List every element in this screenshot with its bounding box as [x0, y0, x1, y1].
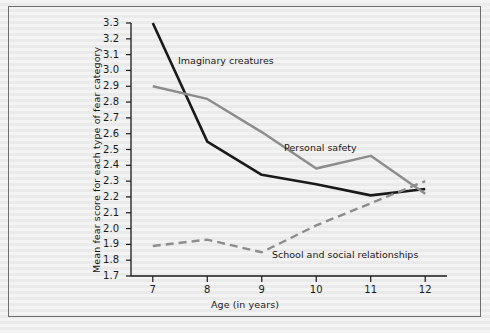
x-tick-label: 12 — [413, 284, 437, 295]
data-series-line — [153, 181, 425, 252]
data-series-line — [153, 23, 425, 195]
x-tick-label: 10 — [304, 284, 328, 295]
series-annotation-label: Personal safety — [284, 142, 357, 153]
y-axis-title: Mean fear score for each type of fear ca… — [91, 47, 102, 273]
y-tick-label: 3.2 — [95, 33, 119, 44]
x-axis-title: Age (in years) — [0, 299, 490, 310]
y-tick-label: 3.3 — [95, 17, 119, 28]
x-tick-label: 7 — [141, 284, 165, 295]
x-tick-label: 8 — [195, 284, 219, 295]
series-annotation-label: Imaginary creatures — [178, 55, 274, 66]
x-tick-label: 11 — [359, 284, 383, 295]
figure-container: 1.71.81.92.02.12.22.32.42.52.62.72.82.93… — [0, 0, 490, 333]
data-series-line — [153, 86, 425, 194]
x-tick-label: 9 — [250, 284, 274, 295]
series-annotation-label: School and social relationships — [272, 249, 418, 260]
